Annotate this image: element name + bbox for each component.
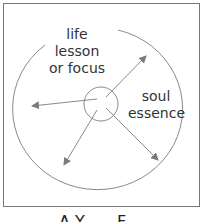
arrow-left xyxy=(32,99,97,106)
inner-label-line1: soul xyxy=(128,88,184,105)
inner-label: soul essence xyxy=(128,88,184,122)
arrow-down-left xyxy=(64,110,97,165)
outer-label: life lesson or focus xyxy=(42,26,112,77)
inner-label-line2: essence xyxy=(128,105,184,122)
outer-label-line2: or focus xyxy=(42,60,112,77)
figure-caption: A Y.. ... F.... xyxy=(0,212,203,222)
inner-circle xyxy=(84,87,118,121)
outer-label-line1: life lesson xyxy=(42,26,112,60)
